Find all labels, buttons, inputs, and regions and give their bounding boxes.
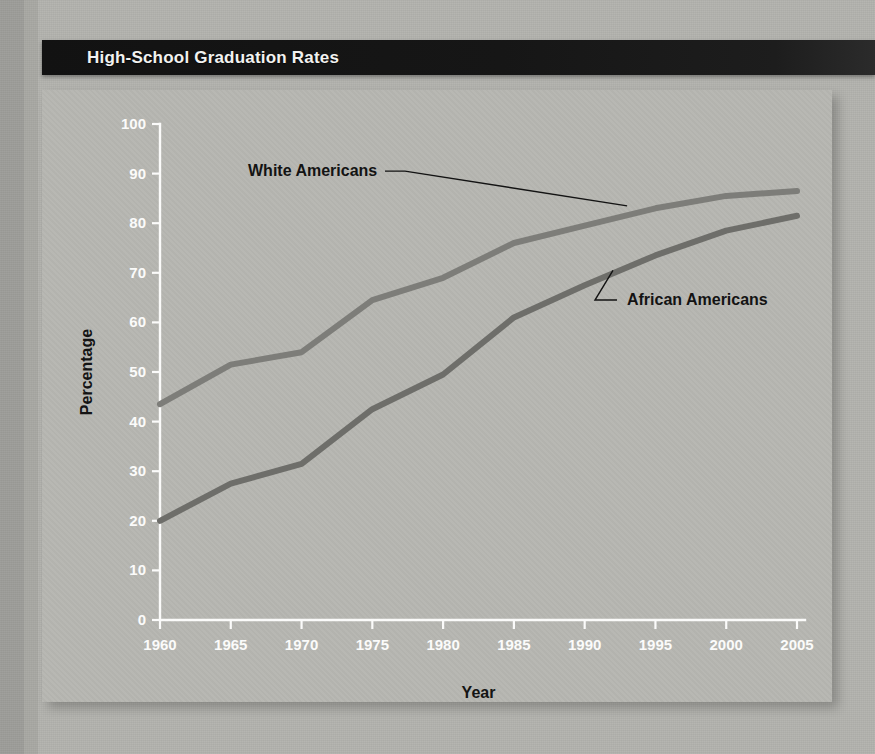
y-tick-label: 50 xyxy=(129,363,146,380)
y-tick-label: 0 xyxy=(138,611,146,628)
x-tick-label: 1970 xyxy=(285,636,318,653)
chart-panel: 0102030405060708090100 19601965197019751… xyxy=(42,90,832,702)
x-tick-label: 1985 xyxy=(497,636,530,653)
x-axis-ticks: 1960196519701975198019851990199520002005 xyxy=(143,620,813,653)
y-tick-label: 20 xyxy=(129,512,146,529)
y-tick-label: 10 xyxy=(129,561,146,578)
y-tick-label: 30 xyxy=(129,462,146,479)
y-tick-label: 40 xyxy=(129,413,146,430)
y-tick-label: 100 xyxy=(121,115,146,132)
title-banner: High-School Graduation Rates xyxy=(42,40,875,75)
line-chart: 0102030405060708090100 19601965197019751… xyxy=(42,90,832,702)
y-tick-label: 90 xyxy=(129,165,146,182)
x-tick-label: 1965 xyxy=(214,636,247,653)
x-tick-label: 1980 xyxy=(426,636,459,653)
y-tick-label: 60 xyxy=(129,313,146,330)
x-tick-label: 1975 xyxy=(356,636,389,653)
x-axis-label: Year xyxy=(462,684,496,701)
x-tick-label: 2000 xyxy=(710,636,743,653)
data-series-group xyxy=(160,191,797,521)
x-tick-label: 2005 xyxy=(780,636,813,653)
x-tick-label: 1995 xyxy=(639,636,672,653)
y-axis-ticks: 0102030405060708090100 xyxy=(121,115,160,628)
y-tick-label: 70 xyxy=(129,264,146,281)
series-annotations: White AmericansAfrican Americans xyxy=(248,162,768,308)
page-title: High-School Graduation Rates xyxy=(87,48,339,68)
y-axis-label: Percentage xyxy=(78,329,95,415)
annotation-leader-line xyxy=(385,171,627,206)
y-tick-label: 80 xyxy=(129,214,146,231)
x-tick-label: 1960 xyxy=(143,636,176,653)
annotation-label: White Americans xyxy=(248,162,377,179)
x-tick-label: 1990 xyxy=(568,636,601,653)
annotation-label: African Americans xyxy=(627,291,768,308)
